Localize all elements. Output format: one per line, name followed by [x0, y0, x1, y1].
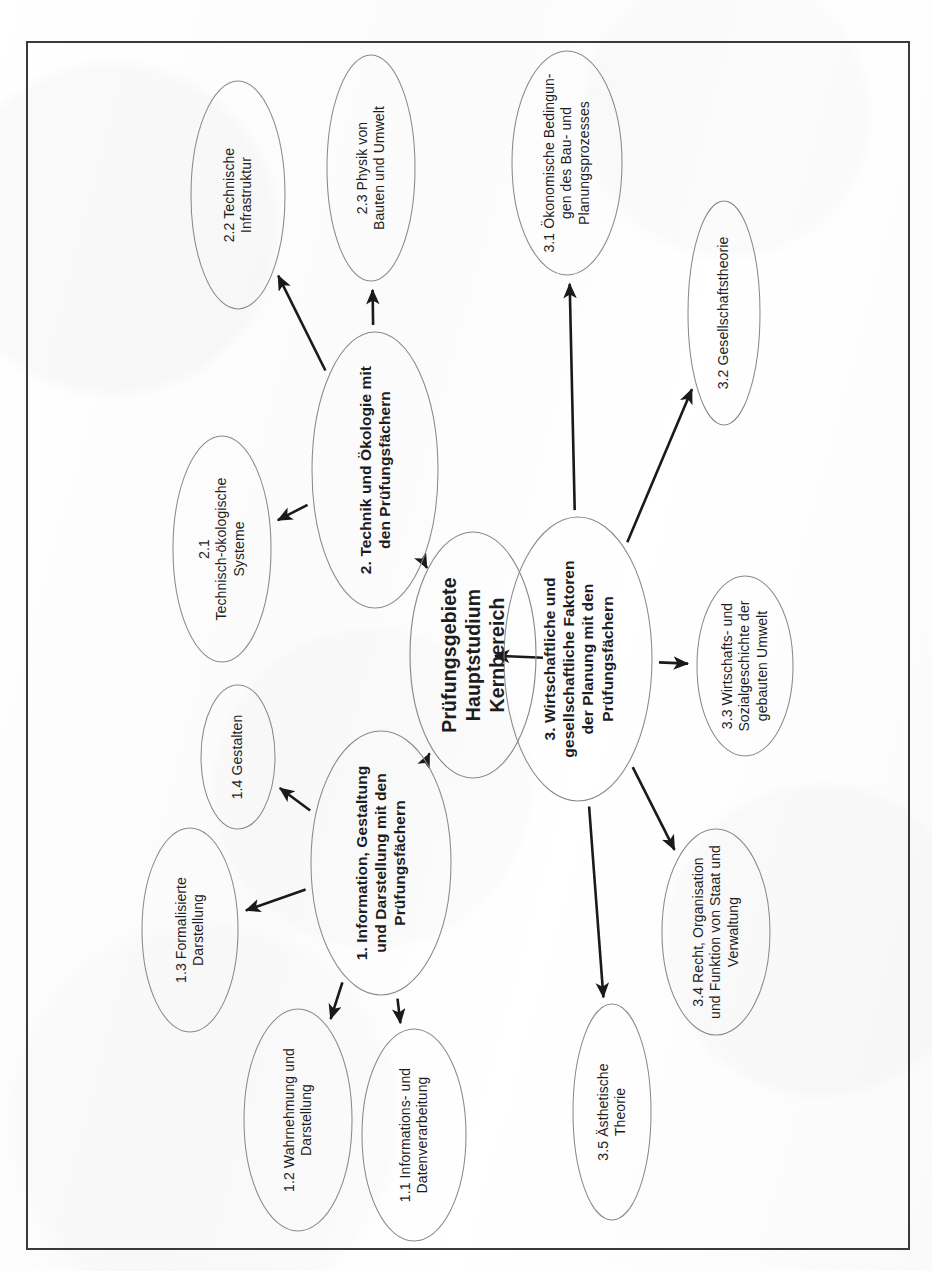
edge-layer: [246, 276, 692, 1024]
edge-b3-to-n34: [633, 767, 675, 850]
edge-b2-to-n23: [373, 290, 374, 325]
edge-b1-to-n12: [331, 982, 343, 1019]
node-ellipse-b2[interactable]: [312, 332, 438, 608]
node-ellipse-n32[interactable]: [688, 201, 760, 425]
edge-b3-to-n33: [659, 662, 688, 663]
node-ellipse-n33[interactable]: [697, 576, 793, 756]
node-ellipse-n22[interactable]: [191, 81, 285, 309]
node-ellipse-n14[interactable]: [201, 685, 275, 829]
node-ellipse-b3[interactable]: [504, 517, 652, 801]
node-ellipse-n35[interactable]: [573, 1004, 651, 1220]
edge-b3-to-n35: [589, 807, 603, 998]
node-ellipse-n23[interactable]: [327, 55, 415, 281]
node-ellipse-b1[interactable]: [311, 731, 451, 995]
node-ellipse-n34[interactable]: [662, 829, 770, 1035]
edge-b1-to-n11: [398, 999, 401, 1024]
node-layer: [142, 51, 793, 1241]
edge-root-to-b2: [424, 563, 427, 568]
edge-b1-to-n14: [280, 788, 310, 811]
node-ellipse-n31[interactable]: [512, 51, 622, 275]
node-ellipse-n13[interactable]: [142, 828, 238, 1032]
node-ellipse-n21[interactable]: [173, 436, 271, 662]
edge-b2-to-n22: [278, 276, 325, 371]
edge-b1-to-n13: [246, 890, 306, 911]
edge-b2-to-n21: [278, 505, 308, 520]
node-ellipse-n11[interactable]: [362, 1029, 466, 1241]
mind-map-canvas: [0, 0, 932, 1271]
edge-root-to-b1: [429, 753, 430, 754]
node-ellipse-n12[interactable]: [244, 1009, 352, 1231]
edge-b3-to-n31: [570, 284, 575, 510]
edge-b3-to-n32: [627, 389, 692, 542]
